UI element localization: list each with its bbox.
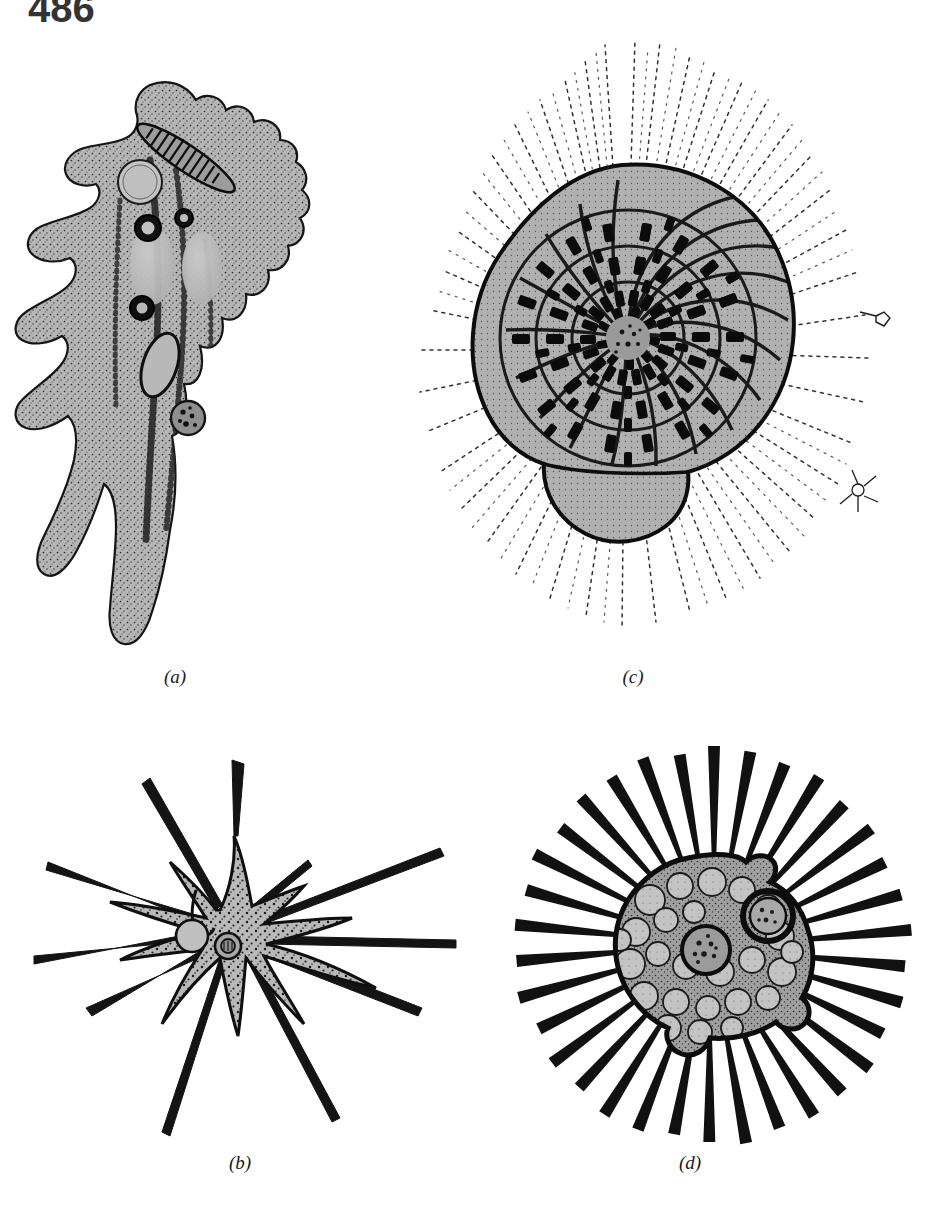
proloculus: [606, 316, 650, 360]
contractile-vacuole: [176, 920, 208, 952]
food-vacuole-2-core: [180, 214, 188, 222]
caption-panel-b: (b): [200, 1152, 280, 1174]
reticulopodia-knot-lower: [840, 470, 878, 512]
foraminiferan-illustration: [360, 20, 920, 660]
caption-panel-c: (c): [593, 666, 673, 688]
hyaline-region-right: [182, 232, 222, 304]
nucleus: [682, 926, 730, 974]
reticulopodia-knot-upper: [860, 312, 890, 326]
heliozoan-illustration: [480, 740, 900, 1140]
food-vacuole-1-core: [142, 222, 155, 235]
nucleus: [171, 401, 205, 435]
axopodial-cytoplasm: [80, 800, 420, 1100]
figure-plate: 486: [0, 0, 929, 1205]
panel-a-amoeba: [0, 40, 340, 660]
page-number: 486: [28, 0, 95, 31]
amoeba-illustration: [0, 40, 340, 660]
panel-d-heliozoan: [480, 740, 900, 1140]
food-vacuole-3-core: [137, 303, 148, 314]
panel-c-foraminiferan: [360, 20, 920, 660]
panel-b-axopodial-amoeba: [20, 740, 460, 1140]
axopodial-amoeba-illustration: [20, 740, 460, 1140]
contractile-vacuole-inner: [123, 165, 157, 199]
caption-panel-a: (a): [135, 666, 215, 688]
food-vacuole-core: [750, 898, 786, 934]
caption-panel-d: (d): [650, 1152, 730, 1174]
